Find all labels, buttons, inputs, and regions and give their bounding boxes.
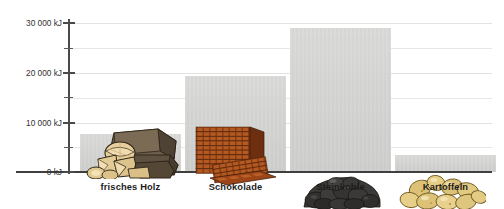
gridline-25000 [68, 48, 492, 49]
plot-area [68, 23, 492, 172]
y-tick-20000 [63, 72, 75, 74]
y-tick-0 [63, 171, 75, 173]
gridline-20000 [68, 73, 492, 74]
category-label-schokolade: Schokolade [185, 182, 286, 192]
y-tick-25000 [64, 48, 73, 49]
y-axis-label-10000: 10 000 kJ [0, 118, 62, 128]
y-axis-label-0: 0 kJ [0, 167, 62, 177]
y-axis-label-20000: 20 000 kJ [0, 68, 62, 78]
y-tick-30000 [63, 22, 75, 24]
bar-frisches-holz [80, 134, 181, 172]
bar-schokolade [185, 76, 286, 172]
y-tick-15000 [64, 97, 73, 98]
y-tick-10000 [63, 122, 75, 124]
category-label-frisches-holz: frisches Holz [80, 182, 181, 192]
bar-steinkohle [290, 28, 391, 172]
bar-chart: 30 000 kJ 20 000 kJ 10 000 kJ 0 kJ [0, 0, 504, 209]
gridline-30000 [68, 23, 492, 24]
y-axis-label-30000: 30 000 kJ [0, 18, 62, 28]
category-label-kartoffeln: Kartoffeln [395, 182, 496, 192]
category-label-steinkohle: Steinkohle [290, 182, 391, 192]
y-tick-5000 [64, 147, 73, 148]
x-axis-line [16, 171, 492, 173]
bar-kartoffeln [395, 155, 496, 172]
